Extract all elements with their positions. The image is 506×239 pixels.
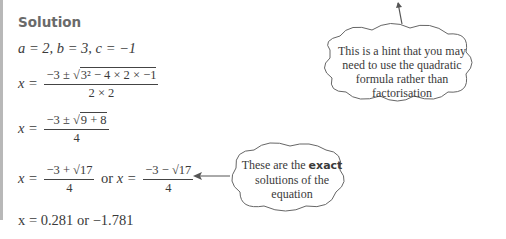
hint-callout: This is a hint that you may need to use … xyxy=(338,44,466,100)
callout-graphics xyxy=(0,0,506,239)
exact-solutions-callout: These are the exact solutions of the equ… xyxy=(240,158,344,201)
